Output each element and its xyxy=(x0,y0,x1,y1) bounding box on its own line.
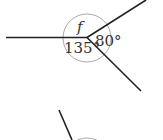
angle-diagram: f 135° 80° xyxy=(0,0,163,140)
angle-arc-circle-bottom xyxy=(63,138,111,140)
angle-label-f: f xyxy=(76,18,85,36)
angle-figure-bottom xyxy=(59,110,111,140)
ray-bottom-upper-left xyxy=(59,110,72,140)
angle-label-80: 80° xyxy=(95,32,122,50)
angle-figure-top: f 135° 80° xyxy=(6,0,146,91)
